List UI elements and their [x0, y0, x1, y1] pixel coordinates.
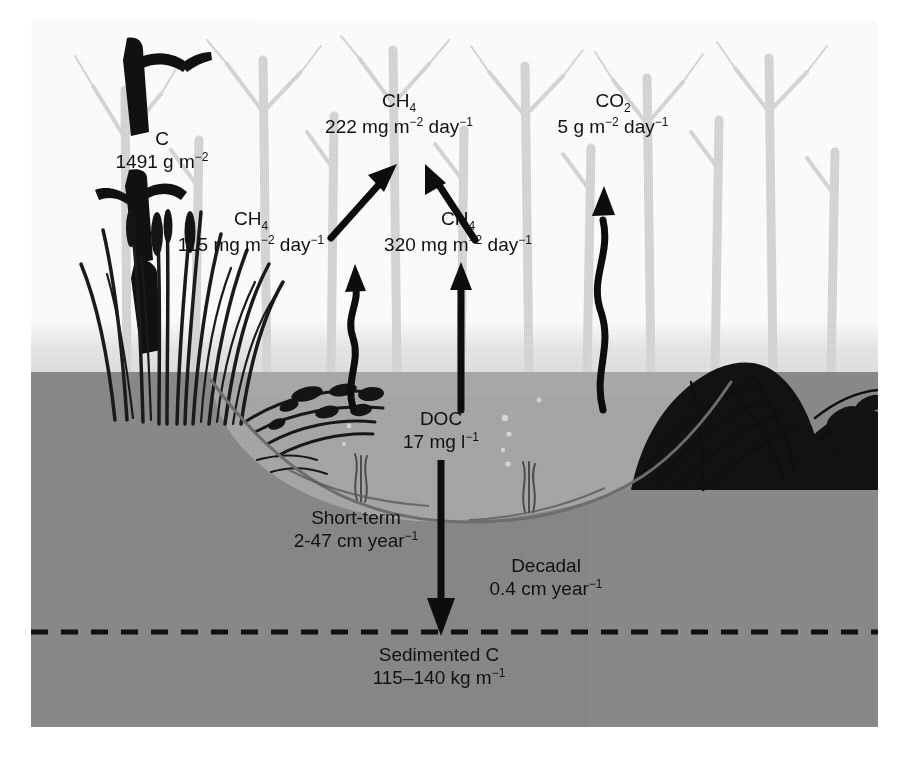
- label-doc-value: 17 mg l: [403, 432, 465, 453]
- label-ch4-left-exponent1: −2: [261, 233, 275, 247]
- label-ch4-total-unit: day: [423, 116, 459, 137]
- label-co2: CO2 5 g m−2 day−1: [518, 90, 708, 139]
- label-co2-unit: day: [619, 116, 655, 137]
- label-ch4-right-exponent1: −2: [469, 233, 483, 247]
- label-short-term: Short-term 2-47 cm year−1: [271, 507, 441, 553]
- label-ch4-right: CH4 320 mg m−2 day−1: [353, 208, 563, 257]
- label-ch4-right-name: CH: [441, 208, 468, 229]
- label-ch4-total-name: CH: [382, 90, 409, 111]
- label-co2-value: 5 g m: [558, 116, 606, 137]
- label-doc-exponent: −1: [465, 430, 479, 444]
- label-decadal: Decadal 0.4 cm year−1: [456, 555, 636, 601]
- label-co2-name: CO: [595, 90, 624, 111]
- label-decadal-value: 0.4 cm year: [490, 579, 589, 600]
- label-ch4-left-value: 115 mg m: [178, 234, 261, 255]
- label-ch4-right-value: 320 mg m: [384, 234, 468, 255]
- label-decadal-exponent: −1: [589, 577, 603, 591]
- label-ch4-total: CH4 222 mg m−2 day−1: [299, 90, 499, 139]
- illustration-panel: C 1491 g m−2 CH4 222 mg m−2 day−1 CO2 5 …: [31, 20, 878, 727]
- label-ch4-right-unit: day: [482, 234, 518, 255]
- label-ch4-right-exponent2: −1: [518, 233, 532, 247]
- label-sedimented-c-value: 115–140 kg m: [373, 668, 492, 689]
- label-biomass-carbon-exponent: −2: [195, 150, 209, 164]
- label-decadal-name: Decadal: [456, 555, 636, 577]
- label-ch4-left-exponent2: −1: [311, 233, 325, 247]
- label-doc: DOC 17 mg l−1: [361, 408, 521, 454]
- label-co2-sub: 2: [624, 101, 631, 115]
- label-ch4-total-exponent2: −1: [459, 115, 473, 129]
- label-ch4-right-sub: 4: [468, 219, 475, 233]
- label-sedimented-c: Sedimented C 115–140 kg m−1: [329, 644, 549, 690]
- label-ch4-total-sub: 4: [409, 101, 416, 115]
- ch4-right-emission-arrow: [450, 262, 472, 410]
- label-co2-exponent2: −1: [655, 115, 669, 129]
- label-short-term-value: 2-47 cm year: [294, 531, 405, 552]
- label-sedimented-c-name: Sedimented C: [329, 644, 549, 666]
- label-sedimented-c-exponent: −1: [492, 666, 506, 680]
- label-biomass-carbon: C 1491 g m−2: [67, 128, 257, 174]
- figure-root: C 1491 g m−2 CH4 222 mg m−2 day−1 CO2 5 …: [0, 0, 906, 764]
- label-doc-name: DOC: [361, 408, 521, 430]
- label-short-term-exponent: −1: [405, 529, 419, 543]
- label-biomass-carbon-value: 1491 g m: [116, 152, 195, 173]
- label-ch4-left-sub: 4: [261, 219, 268, 233]
- label-biomass-carbon-name: C: [67, 128, 257, 150]
- label-ch4-left-name: CH: [234, 208, 261, 229]
- label-ch4-left: CH4 115 mg m−2 day−1: [151, 208, 351, 257]
- co2-emission-arrow: [592, 186, 615, 410]
- label-short-term-name: Short-term: [271, 507, 441, 529]
- label-ch4-total-value: 222 mg m: [325, 116, 409, 137]
- label-co2-exponent1: −2: [605, 115, 619, 129]
- label-ch4-left-unit: day: [275, 234, 311, 255]
- label-ch4-total-exponent1: −2: [410, 115, 424, 129]
